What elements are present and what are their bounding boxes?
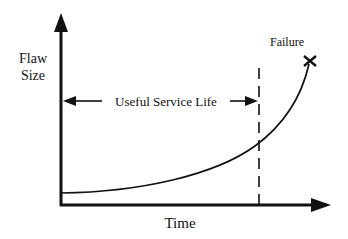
x-axis-label: Time — [164, 215, 195, 231]
x-axis-arrow-icon — [311, 198, 331, 212]
x-axis — [60, 198, 331, 212]
flaw-growth-curve — [61, 64, 309, 193]
y-axis-arrow-icon — [54, 13, 68, 32]
right-arrow-icon — [245, 96, 258, 106]
y-axis-label-line1: Flaw — [19, 51, 48, 66]
y-axis — [54, 13, 68, 206]
left-arrow-icon — [63, 96, 76, 106]
y-axis-label-line2: Size — [21, 68, 45, 83]
useful-service-life-label: Useful Service Life — [115, 94, 217, 109]
failure-marker-icon — [304, 56, 316, 66]
flaw-growth-diagram: Flaw Size Useful Service Life Failure Ti… — [0, 0, 348, 239]
failure-label: Failure — [270, 35, 304, 49]
